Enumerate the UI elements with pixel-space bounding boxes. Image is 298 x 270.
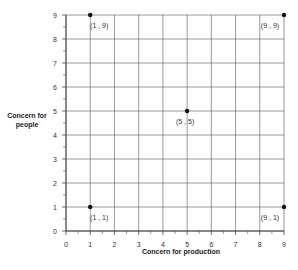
point-label: (1 , 9) xyxy=(90,22,108,30)
grid-chart: 01234567890123456789Concern for producti… xyxy=(0,0,298,270)
y-tick-label: 4 xyxy=(53,132,57,139)
x-tick-label: 8 xyxy=(258,241,262,248)
y-axis-title-line1: Concern for xyxy=(7,112,47,119)
data-point xyxy=(185,109,189,113)
y-tick-label: 2 xyxy=(53,180,57,187)
x-tick-label: 3 xyxy=(137,241,141,248)
x-tick-label: 0 xyxy=(64,241,68,248)
data-point xyxy=(282,205,286,209)
data-point xyxy=(88,205,92,209)
point-label: (5 , 5) xyxy=(176,118,194,126)
x-tick-label: 7 xyxy=(234,241,238,248)
point-label: (9 , 9) xyxy=(261,22,279,30)
x-tick-label: 4 xyxy=(161,241,165,248)
point-label: (1 , 1) xyxy=(90,214,108,222)
data-point xyxy=(282,13,286,17)
y-tick-label: 7 xyxy=(53,60,57,67)
y-tick-label: 5 xyxy=(53,108,57,115)
y-tick-label: 6 xyxy=(53,84,57,91)
y-tick-label: 9 xyxy=(53,12,57,19)
x-tick-label: 9 xyxy=(282,241,286,248)
y-tick-label: 1 xyxy=(53,204,57,211)
x-tick-label: 2 xyxy=(112,241,116,248)
y-tick-label: 0 xyxy=(53,228,57,235)
x-axis-title: Concern for production xyxy=(142,248,220,256)
x-tick-label: 5 xyxy=(185,241,189,248)
data-point xyxy=(88,13,92,17)
y-tick-label: 3 xyxy=(53,156,57,163)
x-tick-label: 1 xyxy=(88,241,92,248)
point-label: (9 , 1) xyxy=(261,214,279,222)
x-tick-label: 6 xyxy=(209,241,213,248)
y-axis-title-line2: people xyxy=(16,121,39,129)
y-tick-label: 8 xyxy=(53,36,57,43)
